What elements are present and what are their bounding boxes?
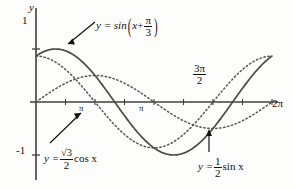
x-tick-label-pi: π <box>139 104 144 113</box>
equation-label-cos-curve: y = √3 2 cos x <box>44 148 97 171</box>
sqrt-three-numerator: √3 <box>60 148 73 160</box>
trig-graph-figure: y 1 -1 π π 3π 2 2π y = sin(x+ π 3 ) y = … <box>0 0 295 189</box>
close-paren-icon: ) <box>154 15 158 37</box>
open-paren-icon: ( <box>128 15 132 37</box>
two-denominator-half: 2 <box>214 168 222 179</box>
equation-lhs-main: y = sin <box>96 19 127 31</box>
equation-label-half-sin-curve: y = 1 2 sin x <box>198 156 244 179</box>
x-tick-label-pi-over-2: π <box>79 104 84 113</box>
equation-sin-x: sin x <box>223 160 244 172</box>
pi-over-3-fraction: π 3 <box>144 15 152 38</box>
three-pi-denominator: 2 <box>193 75 206 86</box>
three-denominator: 3 <box>144 27 152 38</box>
y-tick-label-negative-one: -1 <box>16 145 25 156</box>
equation-plus-sign: + <box>137 19 143 31</box>
y-axis-label: y <box>29 2 34 13</box>
equation-lhs-half-sin: y = <box>198 160 213 172</box>
equation-lhs-cos: y = <box>44 152 59 164</box>
equation-cos-x: cos x <box>74 152 97 164</box>
x-tick-label-two-pi: 2π <box>272 98 283 109</box>
sqrt3-over-2-fraction: √3 2 <box>60 148 73 171</box>
two-denominator: 2 <box>60 160 73 171</box>
equation-label-main-curve: y = sin(x+ π 3 ) <box>96 15 159 38</box>
x-tick-label-three-pi-over-2: 3π 2 <box>192 63 207 86</box>
one-over-two-fraction: 1 2 <box>214 156 222 179</box>
y-tick-label-one: 1 <box>22 15 28 26</box>
